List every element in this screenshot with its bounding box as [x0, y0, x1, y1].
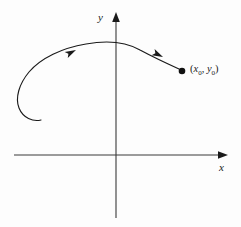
y-axis-label: y: [98, 12, 103, 23]
spiral-curve-group: [17, 42, 179, 121]
coordinate-plane-diagram: [0, 0, 241, 227]
point-coordinate-label: (x0, y0): [190, 64, 219, 77]
y-axis-arrowhead: [112, 12, 120, 22]
figure-canvas: y x (x0, y0): [0, 0, 241, 227]
x-axis-arrowhead: [218, 151, 228, 159]
point-marker: [179, 68, 186, 75]
x-axis-label: x: [219, 162, 224, 173]
label-close-paren: ): [215, 63, 219, 74]
curve-direction-arrowhead-2: [152, 49, 165, 60]
